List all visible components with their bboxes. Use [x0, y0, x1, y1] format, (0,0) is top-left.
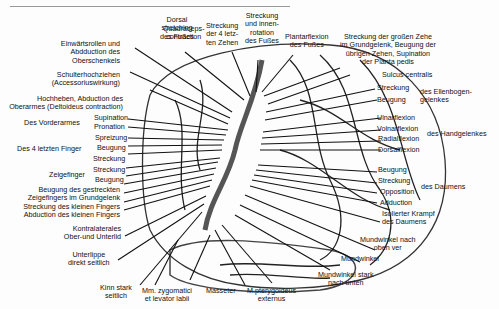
label-zygomatici: Mm. zygomatici et levator labii	[142, 287, 192, 304]
label-beugung-daumen: Beugung	[378, 166, 407, 174]
label-sulcus-centralis: Sulcus centralis	[382, 71, 432, 79]
label-zeigefinger: Zeigefinger	[49, 171, 85, 179]
label-quadraceps: Quadraceps- contraction	[163, 25, 205, 42]
label-des-daumens: des Daumens	[421, 183, 465, 191]
label-streckung-4-zehen: Streckung der 4 letz- ten Zehen	[206, 22, 238, 47]
label-ellenbogengelenk: des Ellenbogen- gelenkes	[420, 88, 472, 105]
label-pronation: Pronation	[94, 123, 125, 131]
label-handgelenk: des Handgelenkes	[427, 130, 487, 138]
label-mundwinkel: Mundwinkel	[341, 255, 379, 263]
label-pterygoideus: M.pterygoideus externus	[247, 287, 296, 304]
label-4-letzten-finger: Des 4 letzten Finger	[17, 145, 81, 153]
label-adduction: Adduction	[380, 199, 412, 207]
label-mundwinkel-stark: Mundwinkel stark nach unten	[318, 271, 374, 288]
label-einwaertsrollen: Einwärtsrollen und Abdduction des Obersc…	[61, 40, 120, 65]
label-masseter: Masseter	[206, 287, 236, 295]
label-plantarflexion: Plantarflexion des Fußes	[285, 33, 329, 50]
label-beugung-finger: Beugung	[97, 144, 126, 152]
label-mundwinkel-oben: Mundwinkel nach oben ver	[360, 236, 416, 253]
label-isolierter-krampf: Isolierter Krampf des Daumens	[382, 210, 435, 227]
label-streckung-finger: Streckung	[93, 155, 125, 163]
label-kinn: Kinn stark seitlich	[100, 284, 132, 301]
label-gestreckter-zeigefinger: Beugung des gestreckten Zeigefingers im …	[23, 186, 120, 220]
label-radialflexion: Radialflexion	[378, 135, 419, 143]
label-vorderarmes: Des Vorderarmes	[24, 119, 80, 127]
label-streckung-ellenbogen: Streckung	[377, 84, 409, 92]
diagram: Dorsal stretching des Fußes Quadraceps- …	[0, 0, 499, 309]
label-beugung-zeige: Beugung	[95, 176, 124, 184]
label-schulterhochziehen: Schulterhochziehen (Accessoriuswirkung)	[52, 71, 120, 88]
label-grosse-zehe: Streckung der großen Zehe im Grundgelenk…	[340, 33, 436, 67]
label-opposition: Opposition	[380, 188, 414, 196]
label-ulnarflexion: Ulnarflexion	[377, 114, 415, 122]
label-beugung-ellenbogen: Beugung	[377, 96, 406, 104]
label-spreizung: Spreizung	[95, 134, 127, 142]
label-kontralaterales-lid: Kontralaterales Ober-und Unterlid	[64, 225, 121, 242]
label-unterlippe: Unterlippe direkt seitlich	[68, 251, 110, 268]
label-volnarflexion: Volnarflexion	[377, 125, 418, 133]
label-innenrotation: Streckung und innen- rotation des Fußes	[245, 12, 279, 46]
label-dorsalflexion: Dorsalflexion	[378, 146, 420, 154]
label-streckung-daumen: Streckung	[378, 177, 410, 185]
label-hochheben: Hochheben, Abduction des Oberarmes (Delt…	[9, 95, 123, 112]
label-streckung-zeige: Streckung	[93, 166, 125, 174]
